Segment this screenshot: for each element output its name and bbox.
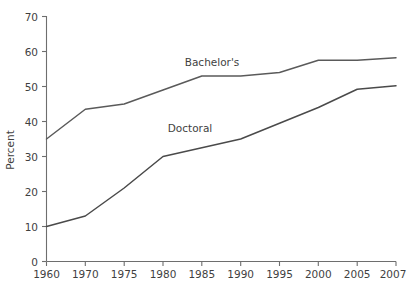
y-tick-label-50: 50 — [25, 81, 38, 93]
chart-container: 70 60 50 40 30 20 10 0 Percent 1960 1970… — [0, 0, 410, 286]
y-tick-label-20: 20 — [25, 186, 38, 198]
y-tick-label-0: 0 — [31, 256, 38, 268]
line-chart: 70 60 50 40 30 20 10 0 Percent 1960 1970… — [0, 0, 410, 286]
y-tick-label-60: 60 — [25, 46, 38, 58]
x-tick-label-1990: 1990 — [227, 268, 254, 280]
x-tick-label-2000: 2000 — [305, 268, 332, 280]
x-tick-label-1985: 1985 — [188, 268, 215, 280]
x-tick-label-2007: 2007 — [380, 268, 407, 280]
y-tick-label-40: 40 — [25, 116, 38, 128]
y-axis-title: Percent — [4, 130, 16, 170]
y-tick-label-10: 10 — [25, 221, 38, 233]
series-line-bachelors — [47, 58, 397, 139]
x-tick-label-1970: 1970 — [72, 268, 99, 280]
x-tick-label-1960: 1960 — [33, 268, 60, 280]
x-tick-label-1980: 1980 — [150, 268, 177, 280]
x-tick-label-2005: 2005 — [344, 268, 371, 280]
series-label-bachelors: Bachelor's — [185, 56, 240, 68]
x-tick-label-1975: 1975 — [111, 268, 138, 280]
x-axis-ticks — [47, 262, 397, 267]
x-tick-label-1995: 1995 — [266, 268, 293, 280]
series-label-doctoral: Doctoral — [168, 122, 213, 134]
y-tick-label-70: 70 — [25, 11, 38, 23]
y-tick-label-30: 30 — [25, 151, 38, 163]
